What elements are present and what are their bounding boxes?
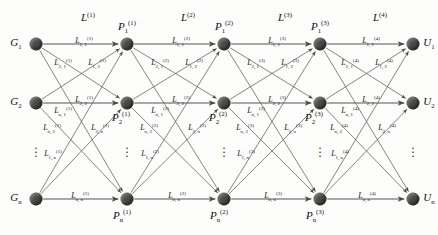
- edge-label-e-l1-1n: L1, n(1): [44, 149, 62, 160]
- edge-g1-to-p2_1: [42, 48, 120, 98]
- graph-node-p1_3[interactable]: [314, 38, 327, 51]
- ellipsis-col-p2: ···: [222, 146, 226, 158]
- edge-label-e-l3-12: L1, 2(3): [281, 58, 299, 69]
- ellipsis-col-u: ···: [411, 146, 415, 158]
- graph-node-p2_3[interactable]: [314, 97, 327, 110]
- edge-label-e-l4-n2: Ln, 2(4): [330, 123, 348, 134]
- edge-label-e-l3-1n: L1, n(3): [237, 149, 255, 160]
- edge-label-e-l3-21: L2, 1(3): [247, 58, 265, 69]
- graph-node-p2_1[interactable]: [121, 97, 134, 110]
- edge-label-e-l4-nn: Ln, n(4): [358, 191, 376, 202]
- graph-node-pn_3[interactable]: [314, 193, 327, 206]
- edge-label-e-l4-21: L2, 1(4): [341, 58, 359, 69]
- edge-label-e-l1-22: L2, 2(1): [75, 95, 93, 106]
- edge-label-e-l1-nn: Ln, n(1): [71, 191, 89, 202]
- edge-label-e-l2-nn: Ln, n(2): [168, 191, 186, 202]
- layer-header-layer-4: L(4): [373, 11, 387, 23]
- edge-p1_3-to-u2: [326, 48, 406, 98]
- node-label-p1_2: P1(2): [215, 20, 233, 35]
- edge-label-e-l3-n2: Ln, 2(3): [236, 123, 254, 134]
- node-label-p2_2: P2(2): [209, 111, 227, 126]
- edge-label-e-l2-n2: Ln, 2(2): [140, 123, 158, 134]
- edge-label-e-l3-22: L2, 2(3): [268, 95, 286, 106]
- edge-label-e-l4-22: L2, 2(4): [362, 95, 380, 106]
- graph-node-p1_2[interactable]: [218, 38, 231, 51]
- graph-node-u2[interactable]: [407, 97, 420, 110]
- layer-header-layer-1: L(1): [81, 11, 95, 23]
- layer-header-layer-2: L(2): [181, 11, 195, 23]
- node-label-pn_3: Pn(3): [306, 209, 324, 224]
- ellipsis-col-p1: ···: [125, 146, 129, 158]
- node-label-gn: Gn: [10, 192, 21, 206]
- edge-label-e-l4-1n: L1, n(4): [331, 149, 349, 160]
- edge-label-e-l3-nn: Ln, n(3): [264, 191, 282, 202]
- node-label-g2: G2: [10, 96, 21, 110]
- node-label-p1_1: P1(1): [118, 20, 136, 35]
- node-label-pn_1: Pn(1): [113, 209, 131, 224]
- graph-node-p1_1[interactable]: [121, 38, 134, 51]
- edge-p1_2-to-p2_3: [230, 48, 312, 99]
- edge-label-e-l2-2n: L2, n(2): [188, 123, 206, 134]
- edge-label-e-l2-12: L1, 2(2): [185, 58, 203, 69]
- edge-gn-to-p1_1: [40, 52, 123, 193]
- layer-header-layer-3: L(3): [278, 11, 292, 23]
- node-label-p2_3: P2(3): [305, 111, 323, 126]
- edge-label-e-l1-11: L1, 1(1): [75, 36, 93, 47]
- graph-node-g2[interactable]: [30, 97, 43, 110]
- edge-label-e-l4-11: L1, 1(4): [362, 36, 380, 47]
- edge-label-e-l2-n1: Ln, 1(2): [151, 106, 169, 117]
- graph-node-g1[interactable]: [30, 38, 43, 51]
- edge-label-e-l4-2n: L2, n(4): [378, 123, 396, 134]
- graph-node-pn_1[interactable]: [121, 193, 134, 206]
- node-label-p1_3: P1(3): [311, 20, 329, 35]
- graph-node-u1[interactable]: [407, 38, 420, 51]
- edge-label-e-l4-n1: Ln, 1(4): [341, 106, 359, 117]
- edge-label-e-l4-12: L1, 2(4): [375, 58, 393, 69]
- graph-node-un[interactable]: [407, 193, 420, 206]
- node-label-u2: U2: [423, 96, 434, 110]
- node-label-g1: G1: [10, 37, 21, 51]
- graph-node-gn[interactable]: [30, 193, 43, 206]
- edge-label-e-l2-1n: L1, n(2): [141, 149, 159, 160]
- graph-node-pn_2[interactable]: [218, 193, 231, 206]
- graph-node-p2_2[interactable]: [218, 97, 231, 110]
- edge-label-e-l1-n2: Ln, 2(1): [43, 123, 61, 134]
- edge-label-e-l1-21: L2, 1(1): [54, 58, 72, 69]
- edge-label-e-l3-11: L1, 1(3): [268, 36, 286, 47]
- edge-label-e-l3-n1: Ln, 1(3): [247, 106, 265, 117]
- edge-label-e-l2-21: L2, 1(2): [151, 58, 169, 69]
- node-label-p2_1: P2(1): [112, 111, 130, 126]
- node-label-pn_2: Pn(2): [210, 209, 228, 224]
- edge-label-e-l1-2n: L2, n(1): [91, 123, 109, 134]
- edge-pn_2-to-p1_3: [228, 51, 316, 192]
- ellipsis-col-p3: ···: [318, 146, 322, 158]
- network-diagram-canvas: G1G2GnP1(1)P2(1)Pn(1)P1(2)P2(2)Pn(2)P1(3…: [0, 0, 438, 235]
- edge-p1_1-to-p2_2: [133, 48, 216, 99]
- ellipsis-col-g: ···: [34, 146, 38, 158]
- edge-label-e-l1-12: L1, 2(1): [88, 58, 106, 69]
- edge-label-e-l3-2n: L2, n(3): [284, 123, 302, 134]
- edge-label-e-l1-n1: Ln, 1(1): [54, 106, 72, 117]
- node-label-u1: U1: [423, 37, 434, 51]
- edge-label-e-l2-11: L1, 1(2): [172, 36, 190, 47]
- edge-label-e-l2-22: L2, 2(2): [172, 95, 190, 106]
- node-label-un: Un: [423, 192, 434, 206]
